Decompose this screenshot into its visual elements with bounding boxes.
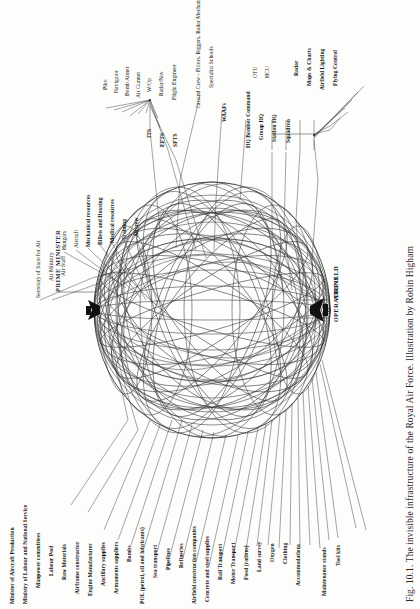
hub-label-operations: OPERATIONS <box>333 277 339 322</box>
label-labour-pool: Labour Pool <box>49 546 55 576</box>
label-mechanical-resources: Mechanical resources <box>86 194 92 247</box>
label-hangars: Hangars <box>62 231 68 250</box>
label-airfield-lighting: Airfield Lighting <box>320 49 326 90</box>
label-flying-control: Flying Control <box>333 50 339 86</box>
label-land-survey: Land survey <box>257 541 263 572</box>
label-oxygen: Oxygen <box>270 543 276 562</box>
figure-plate: PRIME MINISTER AIRFIELD OPERATIONS Secre… <box>0 0 420 609</box>
label-navigator: Navigator <box>114 70 120 93</box>
label-air-ministry: Air Ministry <box>49 252 55 281</box>
pole-markers <box>86 298 328 322</box>
label-food-rations: Food (rations) <box>244 545 250 580</box>
label-its: ITS <box>147 129 153 138</box>
label-rail-transport: Rail Transport <box>218 544 224 580</box>
label-sfts: SFTS <box>173 133 179 147</box>
label-training: Training <box>122 219 128 240</box>
label-flight-engineer: Flight Engineer <box>172 64 178 100</box>
label-station-hq: Station HQ <box>272 114 278 142</box>
label-hq-bomber-command: HQ Bomber Command <box>246 91 252 148</box>
label-ministry-of-labour: Ministry of Labour and National Service <box>23 505 29 604</box>
label-bombs: Bombs <box>127 545 133 562</box>
label-airfield-construction-companies: Airfield construction companies <box>192 526 198 604</box>
label-refineries: Refineries <box>179 543 185 568</box>
label-engine-manufacturer: Engine Manufacturer <box>88 543 94 596</box>
label-armaments-suppliers: Armaments suppliers <box>114 542 120 594</box>
label-raw-materials: Raw Materials <box>62 544 68 580</box>
label-pipelines: Pipelines <box>166 548 172 570</box>
label-maintenance-stands: Maintenance stands <box>322 547 328 596</box>
label-aircraft: Aircraft <box>74 230 80 248</box>
label-ground-crew: Ground Crew - Fitters, Riggers, Radar Me… <box>196 0 202 108</box>
label-medical-resources: Medical resources <box>110 199 116 243</box>
figure-page: PRIME MINISTER AIRFIELD OPERATIONS Secre… <box>0 0 420 609</box>
label-radar-nav: Radar/Nav <box>159 71 165 96</box>
label-hcu: HCU <box>265 66 271 78</box>
label-waafs: WAAFs <box>222 103 228 122</box>
label-aircrew: Aircrew <box>134 217 140 237</box>
label-bomb-aimer: Bomb Aimer <box>125 66 131 96</box>
label-specialist-schools: Specialist Schools <box>209 46 215 88</box>
label-sea-transport: Sea transport <box>153 545 159 578</box>
label-minister-of-aircraft-production: Minister of Aircraft Production <box>10 527 16 604</box>
label-maps-and-charts: Maps & Charts <box>307 48 313 86</box>
label-efts: EFTS <box>160 133 166 147</box>
label-pol: POL (petrol, oil and lubricants) <box>140 527 146 604</box>
label-tool-kits: Tool kits <box>336 545 342 566</box>
diagram-artwork <box>0 0 420 609</box>
label-manpower-committees: Manpower committees <box>36 533 42 588</box>
label-billets-and-housing: Billets and Housing <box>98 197 104 245</box>
label-motor-transport: Motor Transport <box>231 543 237 584</box>
label-squadron: Squadron <box>286 119 292 143</box>
label-otu: OTU <box>253 66 259 78</box>
leader-lines-groundcrew <box>176 95 246 250</box>
label-concrete-and-steel-supplies: Concrete and steel supplies <box>205 536 211 602</box>
label-air-staff: Air Staff <box>61 256 67 276</box>
label-air-gunner: Air Gunner <box>136 72 142 98</box>
label-airframe-constructor: Airframe constructor <box>75 542 81 594</box>
figure-caption: Fig. 10.1. The invisible infrastructure … <box>406 246 416 602</box>
label-group-hq: Group HQ <box>259 114 265 140</box>
label-accommodations: Accommodations <box>296 544 302 586</box>
label-radar: Radar <box>294 61 300 76</box>
label-secretary-of-state-for-air: Secretary of State for Air <box>36 240 42 298</box>
label-clothing: Clothing <box>283 543 289 564</box>
label-wop: W/Op <box>147 78 153 92</box>
label-ancillary-supplies: Ancillary supplies <box>101 542 107 586</box>
label-pilot: Pilot <box>103 79 109 90</box>
